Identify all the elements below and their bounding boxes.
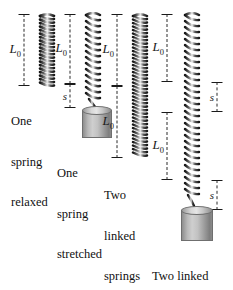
caption-line: One (11, 115, 67, 129)
spring-config3-relaxed (129, 12, 151, 160)
dimension-tick-top (112, 14, 123, 15)
dimension-tick-top (65, 14, 76, 15)
dimension-tick-top (212, 82, 223, 83)
dimension-L0-config2: L0 (58, 14, 82, 84)
dimension-line (24, 14, 25, 86)
dimension-label-s: s (210, 190, 214, 201)
dimension-line (167, 112, 168, 180)
dimension-tick-top (162, 14, 173, 15)
dimension-tick-bottom (112, 157, 123, 158)
spring-coils-icon (129, 12, 151, 160)
dimension-line (70, 84, 71, 108)
caption-line: linked (104, 230, 162, 244)
dimension-s-config2: s (58, 84, 82, 108)
caption-line: Two linked (152, 270, 232, 284)
dimension-line (217, 180, 218, 210)
dimension-line (217, 82, 218, 112)
dimension-tick-bottom (212, 209, 223, 210)
dimension-label-L0: L0 (10, 42, 21, 58)
dimension-L0-config1: L0 (12, 14, 36, 86)
dimension-line (117, 86, 118, 158)
dimension-tick-bottom (65, 107, 76, 108)
dimension-line (70, 14, 71, 84)
dimension-L0-top-config4: L0 (155, 14, 179, 82)
caption-line: Two (104, 189, 162, 203)
dimension-tick-bottom (162, 81, 173, 82)
spring-series-figure: L0 (0, 0, 233, 290)
spring-coils-icon (80, 12, 106, 110)
dimension-s-top-config4: s (206, 82, 228, 112)
dimension-tick-top (19, 14, 30, 15)
dimension-tick-top (65, 84, 76, 85)
dimension-tick-bottom (212, 111, 223, 112)
dimension-tick-bottom (162, 179, 173, 180)
spring-coils-icon (179, 12, 205, 210)
dimension-tick-top (212, 180, 223, 181)
hanging-mass-config4 (181, 206, 213, 241)
spring-config2-stretched (80, 12, 106, 110)
dimension-label-L0: L0 (103, 114, 114, 130)
dimension-line (167, 14, 168, 82)
dimension-L0-bottom-config3: L0 (105, 86, 129, 158)
dimension-L0-top-config3: L0 (105, 14, 129, 86)
dimension-tick-bottom (19, 85, 30, 86)
dimension-label-L0: L0 (153, 40, 164, 56)
dimension-tick-top (112, 86, 123, 87)
dimension-label-L0: L0 (153, 138, 164, 154)
caption-config4: Two linked springs stretched (152, 243, 232, 290)
dimension-line (117, 14, 118, 86)
spring-config4-stretched (179, 12, 205, 210)
dimension-label-s: s (63, 91, 67, 102)
dimension-label-L0: L0 (103, 42, 114, 58)
dimension-label-s: s (210, 92, 214, 103)
mass-top-rim (181, 206, 213, 215)
dimension-L0-bottom-config4: L0 (155, 112, 179, 180)
dimension-label-L0: L0 (56, 41, 67, 57)
dimension-tick-top (162, 112, 173, 113)
